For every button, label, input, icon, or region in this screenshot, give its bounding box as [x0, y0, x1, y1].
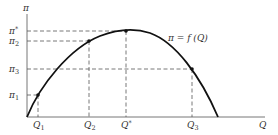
point-qstar — [124, 29, 128, 33]
point-q3 — [190, 67, 194, 71]
label-pi-star: π* — [8, 25, 19, 36]
point-q2 — [87, 39, 91, 43]
label-pi-2: π2 — [8, 36, 19, 48]
label-q-star: Q* — [121, 119, 132, 130]
label-q-2: Q2 — [84, 120, 96, 132]
profit-function-diagram: π Q π = f (Q) π* π2 π3 π1 Q1 Q2 Q* Q3 — [0, 0, 278, 135]
curve-label: π = f (Q) — [167, 33, 208, 43]
label-q-3: Q3 — [187, 120, 199, 132]
x-axis-title: Q — [259, 120, 267, 130]
label-pi-1: π1 — [8, 90, 19, 102]
label-q-1: Q1 — [33, 120, 45, 132]
point-q1 — [36, 93, 40, 97]
label-pi-3: π3 — [8, 64, 19, 76]
y-axis-title: π — [22, 3, 30, 13]
